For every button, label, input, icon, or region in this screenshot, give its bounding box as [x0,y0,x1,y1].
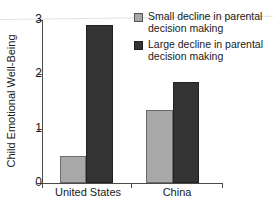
bar-china-large-decline [173,82,199,183]
small-decline-swatch-icon [134,13,143,22]
y-tick-3: 3 [0,20,42,21]
x-axis-line [42,183,223,184]
y-tick-2: 2 [0,74,42,75]
bar-chart-figure: Child Emotional Well-Being 0 1 2 3 Unite… [0,0,273,205]
legend-item-large-decline: Large decline in parental decision makin… [134,39,273,62]
bar-united-states-large-decline [86,25,113,183]
y-axis-title: Child Emotional Well-Being [5,31,17,171]
bar-united-states-small-decline [60,156,86,183]
x-category-label-united-states: United States [44,186,132,198]
x-tick-left [42,183,43,188]
x-category-label-china: China [133,186,221,198]
bar-china-small-decline [146,110,173,183]
y-tick-label-2: 2 [24,67,42,79]
y-tick-label-1: 1 [24,122,42,134]
legend-label-small-decline: Small decline in parental decision makin… [148,11,273,34]
legend-label-large-decline: Large decline in parental decision makin… [148,39,273,62]
y-tick-0: 0 [0,183,42,184]
y-tick-label-0: 0 [24,176,42,188]
legend-item-small-decline: Small decline in parental decision makin… [134,11,273,34]
y-tick-label-3: 3 [24,13,42,25]
legend: Small decline in parental decision makin… [134,11,273,67]
x-tick-right [222,183,223,188]
large-decline-swatch-icon [134,41,143,50]
y-tick-1: 1 [0,129,42,130]
